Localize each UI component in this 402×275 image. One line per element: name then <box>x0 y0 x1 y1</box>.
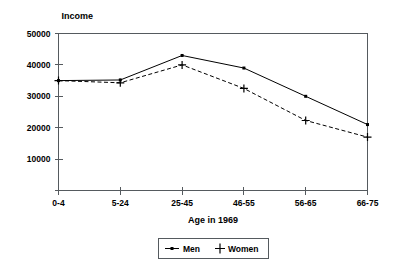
x-axis-title: Age in 1969 <box>188 215 238 225</box>
data-point-women <box>178 61 186 69</box>
data-point-men <box>242 67 245 70</box>
y-tick-label: 20000 <box>27 123 51 133</box>
y-tick-label: 50000 <box>27 29 51 39</box>
x-tick-label: 5-24 <box>112 198 129 208</box>
data-point-men <box>181 54 184 57</box>
y-tick-label: 40000 <box>27 60 51 70</box>
chart-canvas: Income10000200003000040000500000-45-2425… <box>0 0 402 275</box>
income-by-age-line-chart: Income10000200003000040000500000-45-2425… <box>0 0 402 275</box>
legend-label-men: Men <box>183 244 200 254</box>
series-line-men <box>59 55 368 124</box>
data-point-women <box>55 77 63 85</box>
data-point-men <box>366 123 369 126</box>
series-line-women <box>59 65 368 137</box>
x-tick-label: 46-55 <box>233 198 255 208</box>
x-tick-label: 25-45 <box>171 198 193 208</box>
chart-legend[interactable]: MenWomen <box>158 239 268 259</box>
data-point-women <box>302 116 310 124</box>
legend-marker-men-dot <box>171 247 174 250</box>
y-axis: 1000020000300004000050000 <box>27 29 63 191</box>
y-axis-title: Income <box>62 11 94 21</box>
y-tick-label: 10000 <box>27 154 51 164</box>
data-series-group <box>55 54 372 141</box>
chart-titles: Income <box>62 11 94 21</box>
y-tick-label: 30000 <box>27 91 51 101</box>
x-tick-label: 66-75 <box>357 198 379 208</box>
x-tick-label: 56-65 <box>295 198 317 208</box>
plot-border <box>59 34 368 191</box>
data-point-women <box>364 133 372 141</box>
x-axis: 0-45-2425-4546-5556-6566-75Age in 1969 <box>52 187 378 225</box>
x-tick-label: 0-4 <box>52 198 65 208</box>
data-point-men <box>304 95 307 98</box>
plot-frame <box>59 34 368 191</box>
legend-label-women: Women <box>228 244 259 254</box>
data-point-women <box>240 84 248 92</box>
